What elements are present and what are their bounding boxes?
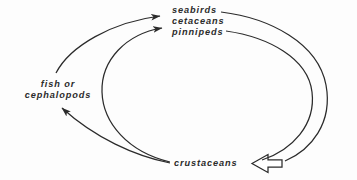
node-label-cephalopods: cephalopods	[12, 90, 104, 101]
hollow-arrowhead-icon	[252, 155, 282, 173]
edge-pinnipeds-to-crustaceans	[226, 31, 312, 160]
node-label-pinnipeds: pinnipeds	[172, 27, 225, 38]
node-crustaceans: crustaceans	[174, 158, 238, 169]
node-label-fish-or: fish or	[12, 79, 104, 90]
node-top-predators: seabirds cetaceans pinnipeds	[172, 5, 225, 39]
node-label-seabirds: seabirds	[172, 5, 225, 16]
node-prey: fish or cephalopods	[12, 79, 104, 101]
node-label-cetaceans: cetaceans	[172, 16, 225, 27]
node-label-crustaceans: crustaceans	[174, 158, 238, 169]
edge-crustaceans-to-prey	[62, 108, 170, 163]
diagram-canvas: seabirds cetaceans pinnipeds fish or cep…	[0, 0, 357, 180]
